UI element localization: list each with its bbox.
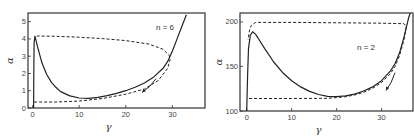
y-tick-label: 100	[225, 107, 238, 116]
x-tick-label: 30	[168, 110, 176, 119]
chart-left-n6: 0102030012345γαn = 6	[0, 0, 207, 137]
y-tick-label: 1	[22, 86, 26, 95]
y-axis-title: α	[4, 57, 15, 64]
y-tick-label: 3	[22, 52, 26, 61]
y-tick-label: 5	[22, 17, 26, 26]
panel-annotation: n = 2	[357, 43, 376, 52]
y-tick-label: 200	[225, 17, 238, 26]
panel-annotation: n = 6	[156, 23, 175, 32]
series-solid	[247, 11, 411, 111]
chart-right-n2: 0102030100150200γαn = 2	[207, 0, 414, 137]
x-tick-label: 20	[122, 110, 130, 119]
x-tick-label: 30	[377, 113, 385, 122]
x-tick-label: 0	[245, 113, 249, 122]
x-tick-label: 0	[31, 110, 35, 119]
x-tick-label: 10	[75, 110, 83, 119]
series-dashed	[248, 22, 406, 98]
y-tick-label: 0	[22, 104, 26, 113]
x-axis-title: γ	[106, 121, 112, 132]
series-dashed	[34, 36, 170, 102]
y-tick-label: 2	[22, 69, 26, 78]
x-tick-label: 20	[332, 113, 340, 122]
y-tick-label: 4	[22, 34, 26, 43]
y-tick-label: 150	[225, 62, 238, 71]
x-tick-label: 10	[288, 113, 296, 122]
figure: 0102030012345γαn = 6 0102030100150200γαn…	[0, 0, 414, 137]
x-axis-title: γ	[316, 124, 322, 135]
y-axis-title: α	[213, 58, 224, 65]
